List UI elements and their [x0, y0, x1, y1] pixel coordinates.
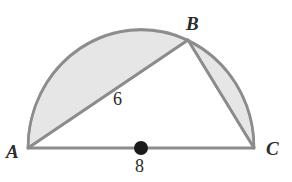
vertex-label-b: B: [186, 14, 199, 33]
vertex-label-a: A: [6, 142, 19, 161]
midpoint-marker-dot: [134, 141, 148, 155]
vertex-label-c: C: [266, 139, 279, 158]
geometry-figure: A B C 6 8: [0, 0, 292, 182]
segment-ac-length-label: 8: [135, 157, 144, 175]
segment-ab-length-label: 6: [113, 90, 122, 108]
geometry-canvas: [0, 0, 292, 182]
segment-bc: [188, 40, 254, 148]
